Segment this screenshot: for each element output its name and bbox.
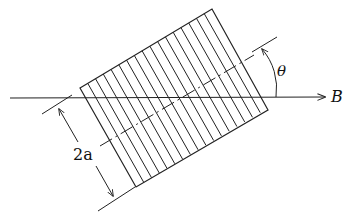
hatch-line xyxy=(158,42,214,141)
dimension-tick-bottom xyxy=(98,187,135,211)
hatch-line xyxy=(165,37,221,136)
dimension-arrow-upper xyxy=(59,109,78,142)
width-label-2a: 2a xyxy=(73,147,93,163)
hatch-line xyxy=(181,28,237,127)
angle-extension-line xyxy=(252,37,277,52)
hatch-line xyxy=(142,51,198,150)
field-axis-line xyxy=(10,97,325,98)
hatch-line xyxy=(127,60,183,159)
hatch-line xyxy=(150,46,206,145)
dimension-arrow-lower xyxy=(96,166,113,196)
angle-arc xyxy=(262,49,277,97)
angle-label-theta: θ xyxy=(277,64,286,79)
hatch-line xyxy=(111,69,167,168)
hatch-line xyxy=(189,23,245,122)
diagram-canvas xyxy=(0,0,350,223)
hatch-line xyxy=(134,55,190,154)
field-label-B: B xyxy=(331,89,343,105)
hatch-line xyxy=(119,65,175,164)
hatch-line xyxy=(173,32,229,131)
slab-centerline xyxy=(100,55,254,146)
hatch-line xyxy=(96,79,152,178)
hatch-line xyxy=(103,74,159,173)
